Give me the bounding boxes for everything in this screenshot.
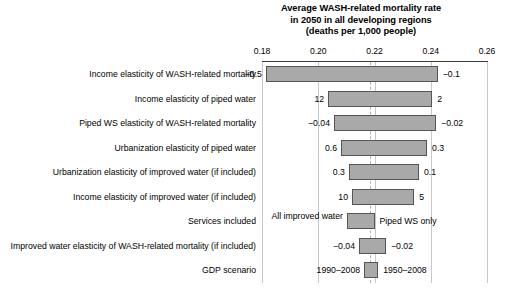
- bar-high-label: Piped WS only: [380, 216, 437, 226]
- tornado-bar: [364, 262, 378, 278]
- x-tick-label: 0.26: [470, 46, 504, 56]
- bar-high-label: 0.3: [432, 143, 444, 153]
- bar-high-label: 5: [419, 192, 424, 202]
- bar-low-label: −0.5: [192, 69, 262, 79]
- bar-low-label: −0.04: [260, 118, 330, 128]
- bar-high-label: 1950–2008: [383, 265, 426, 275]
- bar-high-label: −0.02: [441, 118, 463, 128]
- bar-low-label: 12: [254, 94, 324, 104]
- x-tick-label: 0.24: [414, 46, 448, 56]
- row-category-label: Urbanization elasticity of improved wate…: [4, 167, 256, 177]
- tornado-bar: [266, 66, 438, 82]
- bar-high-label: 0.1: [424, 167, 436, 177]
- chart-title-line-1: Average WASH-related mortality rate: [238, 3, 484, 15]
- bar-low-label: 0.6: [267, 143, 337, 153]
- row-category-label: Urbanization elasticity of piped water: [4, 143, 256, 153]
- tornado-bar: [352, 189, 414, 205]
- row-category-label: GDP scenario: [4, 265, 256, 275]
- row-category-label: Income elasticity of piped water: [4, 94, 256, 104]
- x-tick-label: 0.18: [245, 46, 279, 56]
- chart-container: Average WASH-related mortality rate in 2…: [0, 0, 511, 291]
- row-category-label: Services included: [4, 216, 256, 226]
- x-axis-tick-labels: 0.180.200.220.240.26: [0, 46, 511, 59]
- x-tick-label: 0.20: [301, 46, 335, 56]
- tornado-bar: [334, 115, 436, 131]
- x-tick-label: 0.22: [358, 46, 392, 56]
- bar-low-label: 0.3: [275, 167, 345, 177]
- chart-title-line-3: (deaths per 1,000 people): [238, 26, 484, 38]
- bar-high-label: 2: [437, 94, 442, 104]
- row-category-label: Improved water elasticity of WASH-relate…: [4, 241, 256, 251]
- bar-low-label: 1990–2008: [290, 265, 360, 275]
- chart-title-line-2: in 2050 in all developing regions: [238, 15, 484, 27]
- bar-low-label: All improved water: [261, 211, 343, 221]
- bar-high-label: −0.02: [391, 241, 413, 251]
- tornado-bar: [328, 91, 432, 107]
- row-category-label: Piped WS elasticity of WASH-related mort…: [4, 118, 256, 128]
- tornado-bar: [341, 140, 427, 156]
- bar-high-label: −0.1: [443, 69, 460, 79]
- tornado-rows: Income elasticity of WASH-related mortal…: [0, 62, 511, 283]
- chart-title: Average WASH-related mortality rate in 2…: [238, 3, 484, 38]
- bar-low-label: −0.04: [285, 241, 355, 251]
- tornado-bar: [347, 213, 375, 229]
- tornado-bar: [359, 238, 386, 254]
- row-category-label: Income elasticity of improved water (if …: [4, 192, 256, 202]
- bar-low-label: 10: [278, 192, 348, 202]
- tornado-bar: [349, 164, 419, 180]
